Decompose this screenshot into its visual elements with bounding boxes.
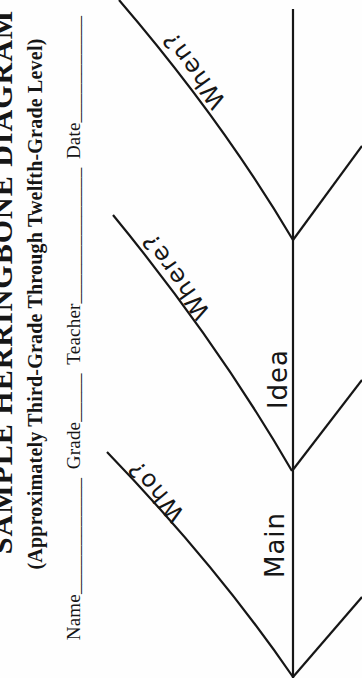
page-title: SAMPLE HERRINGBONE DIAGRAM [0,10,19,554]
rib-right-bottom-line [293,597,362,677]
grade-field-blank: _____ [63,373,84,422]
grade-field-label: Grade [63,422,84,469]
name-field-blank: ____________ [63,478,84,594]
teacher-field-label: Teacher [63,303,84,364]
page-subtitle: (Approximately Third-Grade Through Twelf… [24,38,47,569]
header-fields-line: Name____________Grade_____Teacher_______… [63,16,85,641]
grade-field: Grade_____ [63,373,84,469]
spine-label-main: Main [260,512,290,578]
date-field-label: Date [63,122,84,159]
name-field: Name____________ [63,478,84,641]
date-field: Date___________ [63,16,84,159]
scanned-worksheet-page: SAMPLE HERRINGBONE DIAGRAM (Approximatel… [0,0,362,678]
rib-where-line [113,215,292,471]
teacher-field-blank: ______________ [63,168,84,304]
date-field-blank: ___________ [63,16,84,123]
rib-right-top-line [293,146,362,240]
spine-label-idea: Idea [263,349,293,409]
rib-when-line [119,0,293,240]
name-field-label: Name [63,594,84,640]
rib-right-middle-line [292,380,362,471]
teacher-field: Teacher______________ [63,168,84,365]
herringbone-diagram [0,0,362,678]
